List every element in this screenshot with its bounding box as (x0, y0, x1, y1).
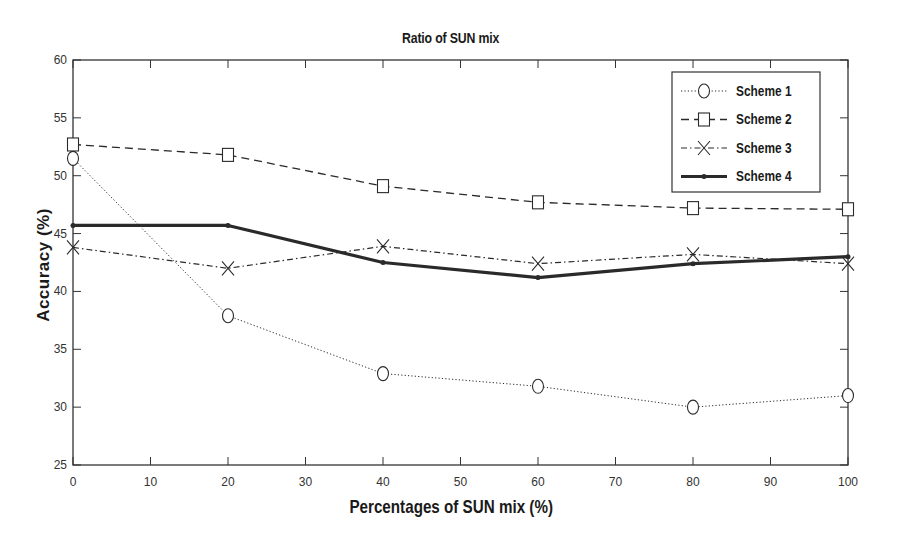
plot-area: 01020304050607080901002530354045505560 S… (0, 0, 897, 543)
square-marker (699, 113, 710, 126)
x-tick-label: 50 (454, 475, 468, 489)
legend-label: Scheme 2 (736, 112, 792, 128)
legend-label: Scheme 3 (736, 140, 792, 156)
circle-marker (843, 389, 854, 403)
x-tick-label: 0 (70, 475, 77, 489)
x-tick-label: 10 (144, 475, 158, 489)
series-4 (71, 223, 851, 280)
square-marker (533, 196, 544, 209)
x-tick-label: 100 (838, 475, 858, 489)
y-tick-label: 30 (54, 400, 68, 414)
dot-marker (691, 261, 696, 266)
x-tick-label: 90 (764, 475, 778, 489)
square-marker (843, 203, 854, 216)
y-tick-label: 25 (54, 458, 68, 472)
x-tick-label: 60 (531, 475, 545, 489)
x-tick-label: 20 (221, 475, 235, 489)
circle-marker (533, 379, 544, 393)
circle-marker (68, 151, 79, 165)
x-tick-label: 80 (686, 475, 700, 489)
legend-label: Scheme 4 (736, 169, 792, 185)
series-line (73, 158, 848, 407)
x-tick-label: 40 (376, 475, 390, 489)
square-marker (68, 138, 79, 151)
circle-marker (378, 367, 389, 381)
series-line (73, 246, 848, 268)
dot-marker (71, 223, 76, 228)
y-tick-label: 60 (54, 53, 68, 67)
dot-marker (536, 275, 541, 280)
circle-marker (688, 400, 699, 414)
dot-marker (702, 174, 707, 179)
dot-marker (846, 254, 851, 259)
circle-marker (223, 309, 234, 323)
square-marker (688, 202, 699, 215)
legend: Scheme 1Scheme 2Scheme 3Scheme 4 (672, 72, 820, 192)
dot-marker (226, 223, 231, 228)
y-tick-label: 45 (54, 227, 68, 241)
x-marker (377, 239, 389, 253)
square-marker (223, 148, 234, 161)
x-marker (687, 247, 699, 261)
legend-label: Scheme 1 (736, 83, 792, 99)
series-line (73, 225, 848, 277)
x-tick-label: 30 (299, 475, 313, 489)
square-marker (378, 180, 389, 193)
y-tick-label: 55 (54, 111, 68, 125)
y-tick-label: 50 (54, 169, 68, 183)
y-tick-label: 40 (54, 284, 68, 298)
x-tick-label: 70 (609, 475, 623, 489)
dot-marker (381, 260, 386, 265)
chart: Ratio of SUN mix Accuracy (%) Percentage… (0, 0, 897, 543)
circle-marker (699, 84, 710, 98)
y-tick-label: 35 (54, 342, 68, 356)
